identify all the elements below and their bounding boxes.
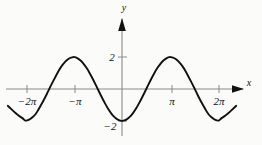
- y-tick-label-2: 2: [109, 52, 115, 63]
- y-tick-label-neg-2: −2: [104, 121, 117, 132]
- y-axis-arrowhead: [118, 18, 126, 31]
- plot-canvas: [0, 0, 262, 145]
- x-tick-label-neg-2pi: −2π: [18, 96, 36, 107]
- x-tick-label-pi: π: [169, 96, 175, 107]
- cosine-graph-figure: −2π −π π 2π 2 −2 x y: [0, 0, 262, 145]
- y-axis-label: y: [122, 3, 126, 13]
- x-tick-label-neg-pi: −π: [69, 96, 82, 107]
- x-tick-label-2pi: 2π: [213, 96, 224, 107]
- x-axis-label: x: [247, 78, 251, 88]
- x-axis-arrowhead: [232, 85, 244, 93]
